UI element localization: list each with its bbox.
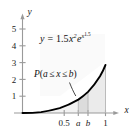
y-tick-label-2: 2 bbox=[12, 75, 17, 85]
probability-le-1: ≤ bbox=[49, 69, 54, 79]
equation-lhs: y bbox=[39, 33, 45, 44]
probability-variable: x bbox=[55, 69, 61, 79]
x-tick-label-one: 1 bbox=[103, 118, 108, 128]
y-axis-label: y bbox=[26, 7, 32, 17]
equation-coefficient: 1.5 bbox=[56, 33, 69, 44]
equation-e-exponent-power: 1.5 bbox=[84, 31, 91, 37]
y-tick-label-1: 1 bbox=[12, 91, 17, 101]
chart-svg: 1 2 3 4 5 0.5 a b 1 y x y=1.5x2ex1.5 P(a bbox=[0, 0, 134, 136]
x-tick-label-half: 0.5 bbox=[59, 118, 71, 128]
probability-density-figure: 1 2 3 4 5 0.5 a b 1 y x y=1.5x2ex1.5 P(a bbox=[0, 0, 134, 136]
equation-equals: = bbox=[47, 33, 53, 44]
x-tick-label-b: b bbox=[86, 118, 91, 128]
y-tick-label-3: 3 bbox=[12, 58, 17, 68]
x-axis-label: x bbox=[123, 105, 129, 115]
probability-le-2: ≤ bbox=[62, 69, 67, 79]
x-axis-arrow bbox=[113, 111, 119, 115]
y-tick-label-5: 5 bbox=[12, 24, 17, 34]
x-tick-label-a: a bbox=[76, 118, 81, 128]
probability-lower-var: a bbox=[43, 69, 48, 79]
y-tick-label-4: 4 bbox=[12, 41, 17, 51]
probability-close-paren: ) bbox=[74, 69, 77, 80]
y-axis-arrow bbox=[20, 14, 24, 20]
